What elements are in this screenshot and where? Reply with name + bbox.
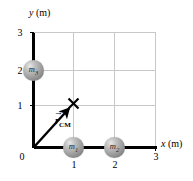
center-of-mass-vector-label: →rCM [55,116,71,129]
x-axis-label: x [161,138,165,149]
grid-lines [34,33,156,148]
center-of-mass-diagram: y (m) x (m) 3 2 1 0 1 2 3 m3 m1 m2 →rCM [0,0,193,181]
x-axis-unit: (m) [168,138,182,149]
diagram-canvas [0,0,193,181]
y-axis-label: y [29,7,33,18]
y-axis-unit: (m) [36,7,50,18]
vector-symbol: →r [55,115,59,126]
axis-ticks [30,33,156,152]
mass-label-m2: m2 [110,142,119,153]
y-tick-label-3: 3 [14,28,26,38]
x-tick-label-2: 2 [109,160,121,170]
x-tick-label-1: 1 [68,160,80,170]
mass-label-m3: m3 [29,65,38,76]
y-axis-title: y (m) [29,8,50,18]
mass-sphere-m3: m3 [23,60,44,81]
mass-sphere-m2: m2 [104,137,125,158]
origin-label: 0 [16,152,28,162]
x-tick-label-3: 3 [150,152,162,162]
vector-subscript: CM [59,121,71,129]
axis-lines [34,33,158,148]
vector-arrow-accent: → [54,108,63,117]
x-axis-title: x (m) [161,139,182,149]
mass-sphere-m1: m1 [63,137,84,158]
y-tick-label-1: 1 [14,101,26,111]
mass-label-m1: m1 [69,142,78,153]
